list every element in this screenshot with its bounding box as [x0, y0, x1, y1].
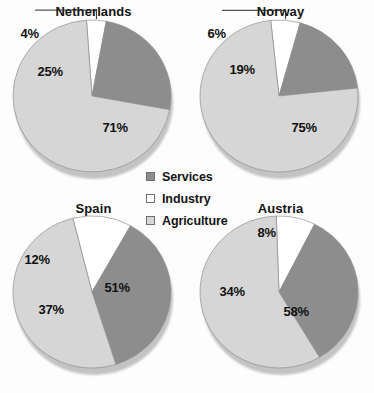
- legend-swatch-agriculture: [146, 216, 155, 225]
- slice-label-agriculture: 75%: [292, 120, 317, 135]
- pie-spain: 12% 37% 51%: [13, 216, 175, 378]
- slice-label-industry: 6%: [208, 26, 226, 41]
- legend-item-services: Services: [146, 167, 250, 186]
- slice-label-industry: 8%: [258, 225, 276, 240]
- slice-label-agriculture: 58%: [284, 304, 309, 319]
- legend-label-services: Services: [162, 170, 213, 184]
- slice-label-services: 25%: [38, 64, 63, 79]
- slice-label-services: 34%: [220, 284, 245, 299]
- legend-item-industry: Industry: [146, 189, 250, 208]
- slice-label-agriculture: 51%: [105, 280, 130, 295]
- legend-label-industry: Industry: [162, 192, 211, 206]
- chart-title-norway: Norway: [187, 4, 374, 19]
- pie-chart-figure: Netherlands 4% 25% 71% Norway 6% 19% 75%…: [0, 0, 374, 393]
- pie-slice-services: [92, 21, 171, 109]
- slice-label-services: 37%: [39, 302, 64, 317]
- legend-item-agriculture: Agriculture: [146, 211, 250, 230]
- pie-netherlands: 4% 25% 71%: [13, 20, 175, 182]
- legend-swatch-industry: [146, 194, 155, 203]
- pie-svg-spain: [13, 216, 171, 368]
- slice-label-industry: 4%: [21, 26, 39, 41]
- slice-label-services: 19%: [230, 62, 255, 77]
- legend-label-agriculture: Agriculture: [162, 214, 228, 228]
- pie-norway: 6% 19% 75%: [200, 20, 362, 182]
- pie-slices: [12, 216, 170, 368]
- legend-swatch-services: [146, 172, 155, 181]
- pie-svg-netherlands: [13, 20, 171, 172]
- slice-label-agriculture: 71%: [103, 120, 128, 135]
- slice-label-industry: 12%: [25, 252, 50, 267]
- chart-legend: Services Industry Agriculture: [146, 167, 250, 233]
- pie-svg-norway: [200, 20, 358, 172]
- chart-title-netherlands: Netherlands: [0, 4, 187, 19]
- pie-austria: 8% 34% 58%: [200, 216, 362, 378]
